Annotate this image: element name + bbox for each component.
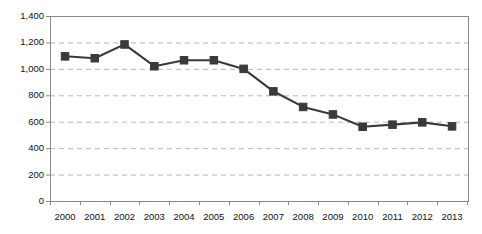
plot-area <box>0 0 482 234</box>
data-markers <box>61 41 456 131</box>
line-chart: Deaths 02004006008001,0001,2001,400 2000… <box>0 0 482 234</box>
plot-frame <box>51 17 469 202</box>
gridlines <box>50 17 468 176</box>
y-axis-ticks <box>46 17 50 202</box>
data-line <box>65 44 452 126</box>
